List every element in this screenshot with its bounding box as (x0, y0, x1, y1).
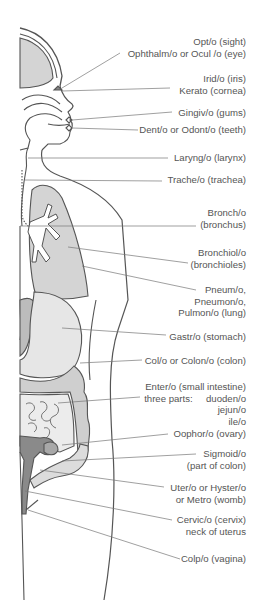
label-line: Sigmoid/o (187, 448, 246, 460)
ovary (44, 442, 58, 455)
label-stomach: Gastr/o (stomach) (169, 331, 246, 343)
label-line: jejun/o (144, 404, 246, 416)
label-line: Opt/o (sight) (128, 36, 246, 48)
label-larynx: Laryng/o (larynx) (174, 152, 246, 164)
label-sight-eye: Opt/o (sight)Ophthalm/o or Ocul /o (eye) (128, 36, 246, 59)
label-line: three parts: duoden/o (144, 393, 246, 405)
label-trachea: Trache/o (trachea) (167, 174, 246, 186)
label-line: Col/o or Colon/o (colon) (145, 355, 246, 367)
label-teeth: Dent/o or Odont/o (teeth) (139, 124, 246, 136)
label-line: Uter/o or Hyster/o (170, 482, 246, 494)
label-line: (bronchioles) (191, 259, 246, 271)
label-sigmoid: Sigmoid/o(part of colon) (187, 448, 246, 471)
label-line: Oophor/o (ovary) (173, 428, 246, 440)
label-line: Pneumon/o, (178, 296, 246, 308)
label-small-intestine: Enter/o (small intestine)three parts: du… (144, 381, 246, 427)
label-line: Gingiv/o (gums) (178, 107, 246, 119)
label-line: Kerato (cornea) (179, 85, 246, 97)
label-line: Cervic/o (cervix) (177, 514, 246, 526)
label-line: Bronch/o (200, 207, 246, 219)
label-cervix: Cervic/o (cervix)neck of uterus (177, 514, 246, 537)
label-line: Gastr/o (stomach) (169, 331, 246, 343)
label-line: (bronchus) (200, 219, 246, 231)
label-line: Dent/o or Odont/o (teeth) (139, 124, 246, 136)
label-line: Pneum/o, (178, 284, 246, 296)
label-line: Bronchiol/o (191, 247, 246, 259)
label-line: (part of colon) (187, 460, 246, 472)
brain (20, 38, 53, 88)
label-line: Trache/o (trachea) (167, 174, 246, 186)
label-line: Enter/o (small intestine) (144, 381, 246, 393)
label-line: ile/o (144, 416, 246, 428)
label-lung: Pneum/o,Pneumon/o,Pulmon/o (lung) (178, 284, 246, 319)
label-uterus: Uter/o or Hyster/oor Metro (womb) (170, 482, 246, 505)
label-iris-cornea: Irid/o (iris)Kerato (cornea) (179, 73, 246, 96)
label-bronchioles: Bronchiol/o(bronchioles) (191, 247, 246, 270)
label-vagina: Colp/o (vagina) (181, 553, 246, 565)
label-colon: Col/o or Colon/o (colon) (145, 355, 246, 367)
label-ovary: Oophor/o (ovary) (173, 428, 246, 440)
label-bronchus: Bronch/o(bronchus) (200, 207, 246, 230)
label-line: Pulmon/o (lung) (178, 307, 246, 319)
label-line: Ophthalm/o or Ocul /o (eye) (128, 48, 246, 60)
label-line: Colp/o (vagina) (181, 553, 246, 565)
label-line: or Metro (womb) (170, 494, 246, 506)
label-line: Irid/o (iris) (179, 73, 246, 85)
label-line: Laryng/o (larynx) (174, 152, 246, 164)
label-gums: Gingiv/o (gums) (178, 107, 246, 119)
label-line: neck of uterus (177, 526, 246, 538)
